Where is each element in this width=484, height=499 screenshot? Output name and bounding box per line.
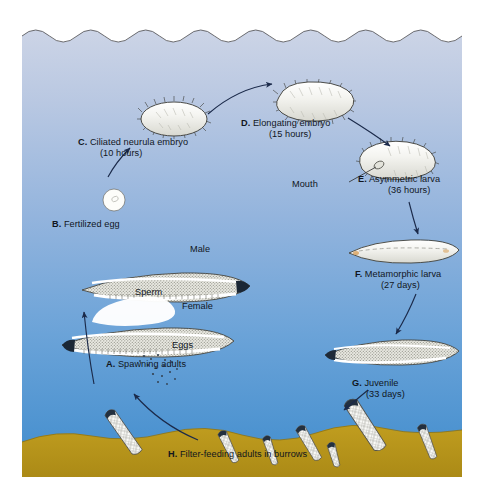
stage-title-D: Elongating embryo xyxy=(253,118,330,128)
stage-label-G: G. Juvenile (33 days) xyxy=(352,378,405,401)
stage-time-D: (15 hours) xyxy=(241,129,330,140)
stage-letter-F: F. xyxy=(355,269,362,279)
life-cycle-illustration-panel: C. Ciliated neurula embryo (10 hours) D.… xyxy=(22,22,462,477)
stage-letter-E: E. xyxy=(358,174,367,184)
stage-label-D: D. Elongating embryo (15 hours) xyxy=(241,118,330,141)
organism-fertilized-egg xyxy=(103,189,125,211)
stage-label-A: A. Spawning adults xyxy=(106,359,186,370)
stage-time-F: (27 days) xyxy=(355,280,441,291)
stage-letter-G: G. xyxy=(352,378,362,388)
stage-letter-B: B. xyxy=(52,219,61,229)
stage-label-C: C. Ciliated neurula embryo (10 hours) xyxy=(78,137,188,160)
stage-title-G: Juvenile xyxy=(364,378,398,388)
stage-time-C: (10 hours) xyxy=(78,148,188,159)
stage-label-E: E. Asymmetric larva (36 hours) xyxy=(358,174,440,197)
stage-title-H: Filter-feeding adults in burrows xyxy=(180,449,307,459)
stage-title-B: Fertilized egg xyxy=(64,219,120,229)
figure-canvas: C. Ciliated neurula embryo (10 hours) D.… xyxy=(0,0,484,499)
stage-letter-A: A. xyxy=(106,359,115,369)
illustration-artwork xyxy=(22,22,462,477)
annotation-male: Male xyxy=(190,244,210,255)
annotation-female: Female xyxy=(182,301,213,312)
stage-label-B: B. Fertilized egg xyxy=(52,219,120,230)
annotation-eggs: Eggs xyxy=(172,340,193,351)
stage-time-G: (33 days) xyxy=(352,389,405,400)
stage-letter-H: H. xyxy=(168,449,177,459)
stage-title-C: Ciliated neurula embryo xyxy=(90,137,188,147)
stage-time-E: (36 hours) xyxy=(358,185,440,196)
stage-letter-C: C. xyxy=(78,137,87,147)
stage-title-F: Metamorphic larva xyxy=(365,269,441,279)
annotation-mouth: Mouth xyxy=(292,179,318,190)
stage-label-F: F. Metamorphic larva (27 days) xyxy=(355,269,441,292)
stage-letter-D: D. xyxy=(241,118,250,128)
stage-title-E: Asymmetric larva xyxy=(369,174,440,184)
stage-label-H: H. Filter-feeding adults in burrows xyxy=(168,449,307,460)
stage-title-A: Spawning adults xyxy=(118,359,186,369)
annotation-sperm: Sperm xyxy=(135,287,162,298)
